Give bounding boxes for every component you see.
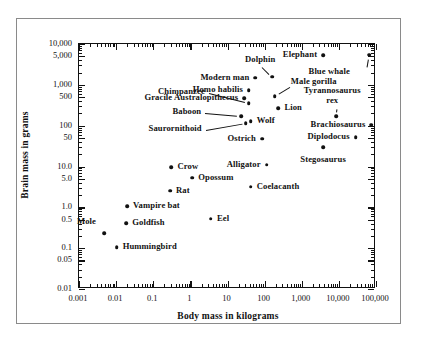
x-tick (333, 284, 334, 287)
y-tick (371, 65, 374, 66)
x-tick (228, 44, 229, 50)
y-tick-label: 500 (28, 91, 72, 101)
x-tick (370, 284, 371, 287)
x-tick (335, 44, 336, 47)
x-tick (182, 284, 183, 287)
x-tick (357, 44, 358, 47)
y-tick (79, 48, 82, 49)
x-tick (110, 44, 111, 47)
x-tick (228, 281, 229, 287)
y-tick (79, 170, 82, 171)
data-point (125, 222, 129, 226)
data-point (115, 245, 119, 249)
data-point (321, 145, 325, 149)
x-tick (164, 44, 165, 47)
y-tick (368, 56, 374, 57)
x-tick (222, 284, 223, 287)
data-point-label: Saurornithoid (149, 124, 202, 134)
x-tick (179, 44, 180, 47)
y-tick (79, 270, 82, 271)
x-tick (261, 284, 262, 287)
y-tick-label: 10.0 (28, 161, 72, 171)
y-tick (79, 209, 82, 210)
x-tick (296, 284, 297, 287)
y-tick-label: 50 (28, 132, 72, 142)
x-tick (179, 284, 180, 287)
x-tick (176, 44, 177, 47)
y-tick (368, 179, 374, 180)
data-point (254, 76, 258, 80)
data-point-label: Homo habilis (193, 85, 243, 95)
x-tick (256, 284, 257, 287)
x-tick (150, 284, 151, 287)
data-point-label: Diplodocus (308, 132, 350, 142)
x-tick (319, 284, 320, 287)
y-tick (371, 106, 374, 107)
data-point (367, 53, 371, 57)
data-point-label: Opossum (198, 173, 233, 183)
y-tick (79, 142, 82, 143)
data-point-label: Goldfish (132, 219, 164, 229)
y-tick (371, 128, 374, 129)
y-tick (371, 216, 374, 217)
x-tick (298, 44, 299, 47)
x-tick (350, 284, 351, 287)
y-tick-label: 0.5 (28, 214, 72, 224)
x-tick (187, 284, 188, 287)
x-tick (259, 44, 260, 47)
y-tick (371, 113, 374, 114)
x-tick (276, 284, 277, 287)
x-tick (365, 44, 366, 47)
y-tick (79, 254, 82, 255)
y-tick (368, 44, 374, 45)
y-tick (371, 142, 374, 143)
x-tick (291, 284, 292, 287)
x-tick (287, 284, 288, 287)
y-tick (79, 89, 82, 90)
data-point-label: Elephant (283, 50, 317, 60)
y-tick (371, 168, 374, 169)
y-tick (368, 97, 374, 98)
y-tick (79, 252, 82, 253)
y-tick (368, 260, 374, 261)
y-tick-label: 0.1 (28, 242, 72, 252)
y-tick (371, 257, 374, 258)
y-tick (371, 132, 374, 133)
x-tick (296, 44, 297, 47)
x-tick (224, 44, 225, 47)
y-tick (79, 106, 82, 107)
y-tick (79, 56, 85, 57)
x-tick (116, 281, 117, 287)
y-tick (371, 135, 374, 136)
data-point-label: Wolf (257, 117, 275, 127)
data-point (168, 189, 172, 193)
y-tick (79, 195, 82, 196)
y-tick (368, 220, 374, 221)
x-tick (294, 284, 295, 287)
y-tick (371, 209, 374, 210)
data-point (249, 185, 253, 189)
x-tick (282, 284, 283, 287)
x-tick (145, 44, 146, 47)
data-point (277, 107, 281, 111)
x-tick (147, 284, 148, 287)
x-tick (185, 44, 186, 47)
data-point-label: Brachiosaurus (311, 120, 366, 130)
data-point (270, 75, 274, 79)
x-tick (142, 284, 143, 287)
x-tick (331, 44, 332, 47)
data-point (102, 231, 106, 235)
x-tick (134, 284, 135, 287)
x-tick (333, 44, 334, 47)
y-tick-label: 0.05 (28, 254, 72, 264)
x-tick (138, 44, 139, 47)
data-point-label: Alligator (227, 160, 261, 170)
x-tick (134, 44, 135, 47)
data-point-label: Dolphin (245, 55, 275, 65)
y-tick (79, 229, 82, 230)
data-point (191, 176, 195, 180)
y-tick (79, 248, 85, 249)
x-tick (376, 281, 377, 287)
x-tick (153, 44, 154, 50)
data-point-label: Rat (176, 186, 190, 196)
